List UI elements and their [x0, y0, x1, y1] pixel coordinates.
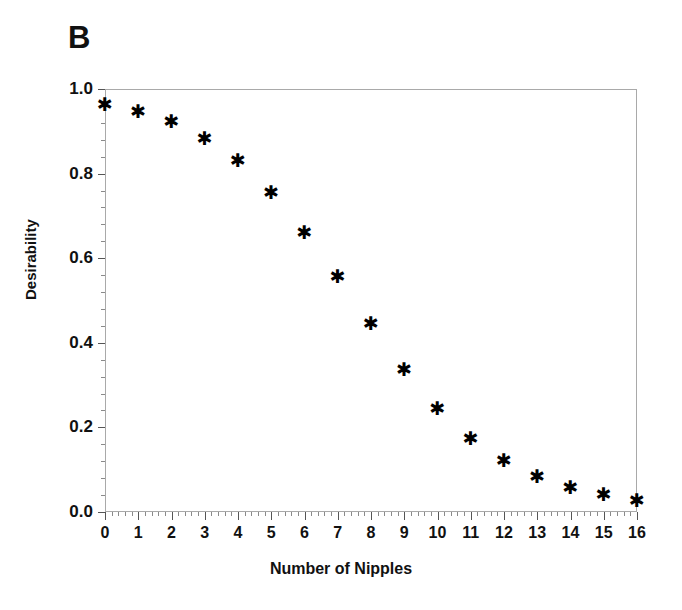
- x-tick-major: [571, 512, 572, 520]
- y-tick-minor: [101, 309, 105, 310]
- x-tick-minor: [497, 512, 498, 516]
- x-tick-label: 0: [101, 524, 110, 542]
- panel-label: B: [68, 22, 90, 53]
- x-tick-major: [404, 512, 405, 520]
- x-tick-label: 15: [595, 524, 613, 542]
- x-tick-label: 1: [134, 524, 143, 542]
- x-tick-major: [637, 512, 638, 520]
- y-tick-minor: [101, 191, 105, 192]
- x-axis-title: Number of Nipples: [0, 560, 682, 578]
- x-tick-major: [438, 512, 439, 520]
- x-tick-minor: [231, 512, 232, 516]
- x-tick-minor: [165, 512, 166, 516]
- x-tick-minor: [191, 512, 192, 516]
- x-tick-minor: [344, 512, 345, 516]
- x-tick-minor: [265, 512, 266, 516]
- y-tick-minor: [101, 394, 105, 395]
- x-tick-major: [205, 512, 206, 520]
- y-tick-minor: [101, 495, 105, 496]
- x-tick-major: [172, 512, 173, 520]
- x-tick-minor: [597, 512, 598, 516]
- y-tick-minor: [101, 444, 105, 445]
- figure-panel-b: B 0.00.20.40.60.81.0 Desirability 012345…: [0, 0, 682, 610]
- x-tick-minor: [624, 512, 625, 516]
- y-tick-minor: [101, 241, 105, 242]
- x-tick-minor: [358, 512, 359, 516]
- x-tick-minor: [211, 512, 212, 516]
- x-tick-major: [338, 512, 339, 520]
- x-tick-major: [604, 512, 605, 520]
- y-tick-minor: [101, 123, 105, 124]
- y-tick-major: [98, 174, 105, 175]
- x-tick-minor: [531, 512, 532, 516]
- x-tick-minor: [158, 512, 159, 516]
- x-tick-minor: [577, 512, 578, 516]
- x-tick-minor: [477, 512, 478, 516]
- x-tick-label: 4: [234, 524, 243, 542]
- x-tick-minor: [245, 512, 246, 516]
- y-tick-label: 0.2: [69, 417, 93, 437]
- x-tick-minor: [457, 512, 458, 516]
- y-tick-major: [98, 258, 105, 259]
- x-tick-minor: [178, 512, 179, 516]
- x-tick-minor: [544, 512, 545, 516]
- x-tick-minor: [298, 512, 299, 516]
- x-tick-minor: [557, 512, 558, 516]
- y-tick-minor: [101, 224, 105, 225]
- y-tick-minor: [101, 478, 105, 479]
- x-tick-label: 6: [300, 524, 309, 542]
- x-tick-major: [504, 512, 505, 520]
- y-tick-label: 0.6: [69, 248, 93, 268]
- x-tick-minor: [285, 512, 286, 516]
- x-tick-minor: [311, 512, 312, 516]
- y-tick-minor: [101, 140, 105, 141]
- x-tick-minor: [517, 512, 518, 516]
- y-tick-major: [98, 512, 105, 513]
- x-tick-label: 5: [267, 524, 276, 542]
- x-tick-label: 12: [495, 524, 513, 542]
- x-tick-minor: [112, 512, 113, 516]
- x-tick-minor: [218, 512, 219, 516]
- x-tick-label: 7: [333, 524, 342, 542]
- y-tick-major: [98, 89, 105, 90]
- x-tick-label: 13: [528, 524, 546, 542]
- y-tick-minor: [101, 292, 105, 293]
- x-tick-minor: [398, 512, 399, 516]
- x-tick-label: 8: [367, 524, 376, 542]
- x-tick-minor: [444, 512, 445, 516]
- x-tick-minor: [384, 512, 385, 516]
- y-tick-minor: [101, 157, 105, 158]
- x-tick-major: [138, 512, 139, 520]
- x-tick-major: [271, 512, 272, 520]
- x-tick-minor: [185, 512, 186, 516]
- x-tick-minor: [198, 512, 199, 516]
- y-tick-major: [98, 427, 105, 428]
- x-tick-minor: [411, 512, 412, 516]
- y-axis-title: Desirability: [22, 219, 39, 300]
- plot-frame: [105, 89, 637, 512]
- x-tick-minor: [324, 512, 325, 516]
- x-tick-minor: [610, 512, 611, 516]
- y-tick-minor: [101, 326, 105, 327]
- x-tick-minor: [431, 512, 432, 516]
- x-tick-minor: [584, 512, 585, 516]
- x-tick-minor: [424, 512, 425, 516]
- x-tick-minor: [491, 512, 492, 516]
- x-tick-minor: [132, 512, 133, 516]
- y-tick-label: 1.0: [69, 79, 93, 99]
- x-tick-minor: [551, 512, 552, 516]
- y-tick-label: 0.0: [69, 502, 93, 522]
- x-tick-minor: [278, 512, 279, 516]
- x-tick-minor: [145, 512, 146, 516]
- x-tick-label: 14: [562, 524, 580, 542]
- x-tick-minor: [351, 512, 352, 516]
- y-tick-minor: [101, 410, 105, 411]
- x-tick-minor: [451, 512, 452, 516]
- y-tick-label: 0.4: [69, 333, 93, 353]
- x-tick-minor: [258, 512, 259, 516]
- y-tick-minor: [101, 360, 105, 361]
- x-tick-minor: [152, 512, 153, 516]
- x-tick-minor: [418, 512, 419, 516]
- x-tick-minor: [617, 512, 618, 516]
- x-tick-minor: [364, 512, 365, 516]
